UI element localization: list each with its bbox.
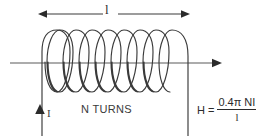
coil-turn	[79, 30, 105, 92]
formula-left-side: H =	[197, 104, 214, 116]
arrowhead-axis-icon	[212, 59, 222, 67]
formula-denominator: l	[235, 110, 238, 123]
formula-numerator: 0.4π NI	[217, 96, 256, 110]
solenoid-diagram: l N TURNS I H = 0.4π NI l	[0, 0, 265, 136]
turns-label: N TURNS	[81, 104, 132, 115]
current-label: I	[47, 108, 51, 119]
coil-turn	[111, 30, 137, 92]
current-direction-arrow	[35, 104, 45, 114]
arrowhead-left-icon	[38, 10, 47, 18]
length-label: l	[105, 3, 109, 16]
coil-turn	[127, 30, 153, 92]
field-strength-formula: H = 0.4π NI l	[197, 96, 256, 123]
arrowhead-current-icon	[35, 104, 45, 114]
arrowhead-right-icon	[181, 10, 190, 18]
coil-turn	[63, 30, 89, 92]
coil-turn	[95, 30, 121, 92]
formula-fraction: 0.4π NI l	[217, 96, 256, 123]
coil-turn	[143, 30, 169, 92]
coil-windings	[42, 30, 188, 136]
length-dimension-arrow	[38, 10, 190, 18]
